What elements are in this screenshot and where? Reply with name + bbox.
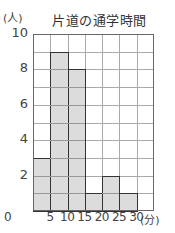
y-tick-label: 2 [8, 167, 28, 182]
y-tick-label: 4 [8, 131, 28, 146]
x-tick-label: 15 [77, 210, 91, 224]
y-tick-label: 10 [8, 25, 28, 40]
plot-frame [33, 34, 154, 211]
chart-title: 片道の通学時間 [52, 10, 147, 29]
x-tick-label: 25 [112, 210, 126, 224]
x-tick-label: 0 [4, 210, 11, 224]
x-tick-label: 20 [95, 210, 109, 224]
y-unit-label: (人) [3, 9, 23, 25]
x-unit-label: (分) [140, 211, 160, 227]
y-tick-label: 8 [8, 60, 28, 75]
x-tick-label: 5 [47, 210, 54, 224]
x-tick-label: 10 [60, 210, 74, 224]
y-tick-label: 6 [8, 96, 28, 111]
plot-area [33, 34, 154, 211]
